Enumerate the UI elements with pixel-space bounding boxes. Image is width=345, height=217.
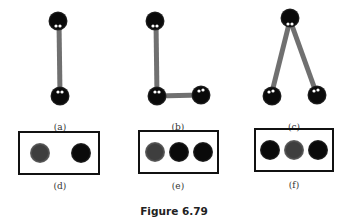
label-d: (d): [54, 181, 67, 191]
rod: [271, 20, 290, 96]
label-a: (a): [54, 122, 66, 132]
label-e: (e): [172, 181, 184, 191]
panel-c: (c): [263, 9, 327, 133]
ball-icon: [51, 87, 70, 106]
ball-icon: [49, 12, 68, 31]
rod: [290, 20, 317, 95]
ball-icon: [146, 12, 165, 31]
ball-icon: [263, 87, 282, 106]
figure-caption: Figure 6.79: [140, 205, 208, 217]
panel-f: (f): [255, 129, 333, 190]
ball-icon: [192, 86, 211, 105]
panel-a: (a): [49, 12, 70, 133]
rod: [156, 22, 157, 96]
dark-ball-icon: [193, 142, 213, 162]
figure-canvas: (a) (b): [0, 0, 345, 217]
panel-d: (d): [19, 132, 99, 191]
ball-icon: [281, 9, 300, 28]
grey-ball-icon: [284, 140, 304, 160]
dark-ball-icon: [71, 143, 91, 163]
panel-b: (b): [146, 12, 211, 133]
dark-ball-icon: [260, 140, 280, 160]
panel-e: (e): [139, 131, 218, 191]
ball-icon: [308, 86, 327, 105]
label-f: (f): [289, 180, 299, 190]
grey-ball-icon: [145, 142, 165, 162]
grey-ball-icon: [30, 143, 50, 163]
ball-icon: [148, 87, 167, 106]
dark-ball-icon: [308, 140, 328, 160]
label-c: (c): [288, 122, 300, 132]
rod: [59, 22, 60, 95]
dark-ball-icon: [169, 142, 189, 162]
